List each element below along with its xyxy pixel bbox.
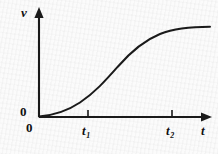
x-tick-label-t2: t2 xyxy=(166,124,174,137)
t2-subscript: 2 xyxy=(170,131,174,140)
x-origin-zero-label: 0 xyxy=(26,121,33,134)
x-axis-label: t xyxy=(201,124,205,137)
x-axis-arrowhead xyxy=(201,112,212,121)
y-origin-zero-label: 0 xyxy=(20,105,27,118)
x-tick-label-t1: t1 xyxy=(82,124,90,137)
graph-canvas xyxy=(0,0,218,154)
y-axis-arrowhead xyxy=(34,7,43,18)
velocity-time-figure: v t 0 0 t1 t2 xyxy=(0,0,218,154)
t1-subscript: 1 xyxy=(86,131,90,140)
y-axis-label: v xyxy=(21,6,27,19)
velocity-curve xyxy=(39,27,210,117)
